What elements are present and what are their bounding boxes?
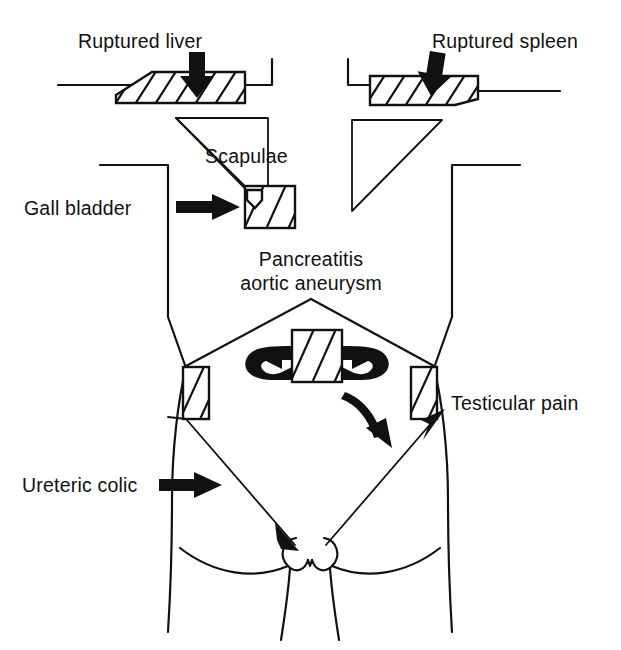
left-inner-thigh bbox=[281, 568, 290, 640]
scrotum-cleft bbox=[308, 560, 312, 566]
left-flank-shape bbox=[183, 367, 209, 419]
right-inguinal-crease bbox=[332, 548, 440, 574]
gall-bladder-arrow bbox=[176, 194, 240, 220]
pancreas-right-curved-arrow bbox=[342, 346, 389, 380]
label-pancreatitis: Pancreatitis bbox=[259, 248, 363, 270]
gall-bladder-organ bbox=[240, 176, 312, 238]
label-ureteric-colic: Ureteric colic bbox=[22, 474, 138, 496]
pancreas-left-curved-arrow bbox=[245, 346, 292, 380]
right-scapula-triangle bbox=[352, 120, 442, 211]
referred-pain-figure: Ruptured liver Ruptured spleen Scapulae … bbox=[0, 0, 621, 650]
ruptured-liver-organ bbox=[58, 59, 272, 112]
pancreas-down-curved-arrow bbox=[341, 392, 392, 448]
left-inguinal-crease bbox=[180, 548, 288, 574]
liver-chest-right-wall bbox=[245, 59, 272, 85]
ruptured-spleen-organ bbox=[348, 59, 560, 114]
left-torso-outline bbox=[100, 165, 186, 368]
label-gall-bladder: Gall bladder bbox=[24, 197, 132, 219]
right-flank-shape bbox=[411, 367, 437, 419]
scrotum-right-lobe bbox=[312, 538, 337, 570]
spleen-chest-left-wall bbox=[348, 59, 370, 85]
ureteric-colic-arrow bbox=[159, 472, 222, 498]
diagram-canvas: Ruptured liver Ruptured spleen Scapulae … bbox=[0, 0, 621, 650]
label-ruptured-liver: Ruptured liver bbox=[78, 30, 202, 52]
label-aortic-aneurysm: aortic aneurysm bbox=[240, 272, 382, 294]
right-torso-outline bbox=[434, 165, 520, 368]
right-inner-thigh bbox=[330, 568, 339, 640]
label-testicular-pain: Testicular pain bbox=[451, 392, 579, 414]
label-ruptured-spleen: Ruptured spleen bbox=[432, 30, 578, 52]
right-scapula-shape bbox=[352, 120, 442, 211]
left-flank-organ bbox=[176, 358, 228, 428]
label-scapulae: Scapulae bbox=[205, 145, 288, 167]
